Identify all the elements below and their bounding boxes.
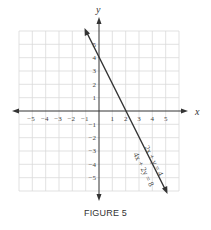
svg-text:2: 2 — [124, 115, 128, 123]
svg-text:−2: −2 — [68, 115, 76, 123]
svg-text:−2: −2 — [89, 134, 97, 142]
x-tick-labels: −5 −4 −3 −2 −1 1 2 3 4 5 — [27, 115, 168, 123]
coordinate-plane: x y −5 −4 −3 −2 −1 1 2 3 4 5 1 2 3 4 5 −… — [0, 0, 211, 230]
svg-text:1: 1 — [111, 115, 115, 123]
y-axis-up-arrow-icon — [97, 17, 102, 24]
x-axis-label: x — [194, 106, 200, 117]
x-axis — [12, 109, 188, 114]
svg-text:−5: −5 — [27, 115, 35, 123]
svg-text:3: 3 — [93, 67, 97, 75]
svg-text:−5: −5 — [89, 174, 97, 182]
svg-text:4: 4 — [93, 54, 97, 62]
svg-text:−3: −3 — [54, 115, 62, 123]
svg-text:4: 4 — [151, 115, 155, 123]
svg-text:3: 3 — [137, 115, 141, 123]
x-axis-left-arrow-icon — [12, 109, 19, 114]
svg-text:1: 1 — [93, 94, 97, 102]
y-axis-down-arrow-icon — [97, 194, 102, 201]
svg-text:2: 2 — [93, 81, 97, 89]
svg-text:5: 5 — [164, 115, 168, 123]
svg-text:−4: −4 — [41, 115, 49, 123]
svg-text:−4: −4 — [89, 161, 97, 169]
figure-caption: FIGURE 5 — [0, 208, 211, 218]
y-axis-label: y — [95, 4, 101, 15]
svg-text:−1: −1 — [89, 121, 97, 129]
svg-text:−3: −3 — [89, 147, 97, 155]
x-axis-right-arrow-icon — [181, 109, 188, 114]
